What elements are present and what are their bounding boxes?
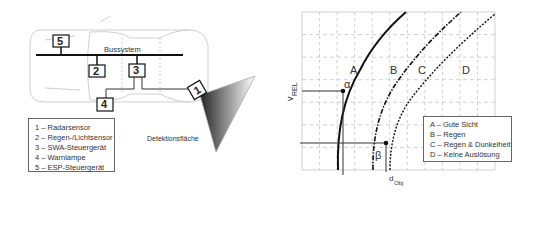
legend-item: 4 – Warnlampe	[35, 153, 108, 163]
curve-label-b: B	[390, 64, 397, 76]
curve-label-d: D	[462, 64, 470, 76]
component-legend: 1 – Radarsensor 2 – Regen-/Lichtsensor 3…	[28, 118, 115, 172]
legend-item: 1 – Radarsensor	[35, 123, 108, 133]
beta-label: β	[375, 149, 381, 161]
legend-item: 3 – SWA-Steuergerät	[35, 143, 108, 153]
wire-3-to-4	[106, 77, 134, 98]
component-2-number: 2	[93, 65, 99, 77]
legend-item: D – Keine Auslösung	[430, 150, 505, 160]
legend-item: B – Regen	[430, 130, 505, 140]
component-5-number: 5	[57, 35, 63, 47]
detection-label: Detektionsfläche	[147, 135, 199, 142]
wire-3-to-1	[142, 77, 190, 89]
curve-label-a: A	[350, 64, 358, 76]
legend-item: 2 – Regen-/Lichtsensor	[35, 133, 108, 143]
y-axis-label: v REL	[285, 82, 298, 101]
component-3-number: 3	[133, 64, 139, 76]
legend-item: C – Regen & Dunkelheit	[430, 140, 505, 150]
svg-text:Obj: Obj	[394, 180, 403, 186]
component-4-number: 4	[101, 98, 108, 110]
x-axis-label: d Obj	[389, 174, 403, 186]
legend-item: A – Gute Sicht	[430, 120, 505, 130]
legend-item: 5 – ESP-Steuergerät	[35, 163, 108, 173]
beta-point	[384, 141, 389, 146]
alpha-label: α	[344, 78, 351, 90]
svg-text:d: d	[389, 174, 393, 183]
curve-legend: A – Gute Sicht B – Regen C – Regen & Dun…	[423, 116, 512, 162]
bus-label: Bussystem	[104, 45, 141, 54]
curve-label-c: C	[418, 64, 426, 76]
svg-text:REL: REL	[291, 82, 298, 96]
